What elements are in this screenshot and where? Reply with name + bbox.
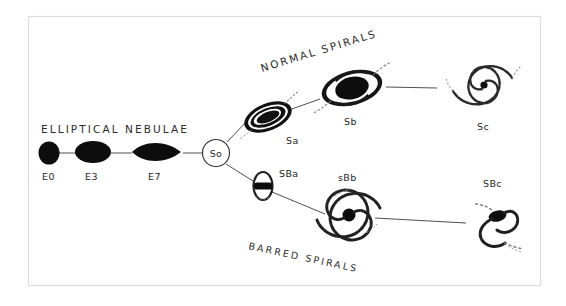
label-e0: E0 (42, 171, 55, 182)
galaxy-e3 (75, 141, 111, 163)
galaxy-sbb (317, 189, 380, 240)
galaxy-sba (254, 172, 273, 200)
label-sba: SBa (279, 168, 299, 179)
connector-sa-sb (289, 99, 320, 110)
connector-sbb-sbc (375, 218, 466, 223)
heading-elliptical-nebulae: ELLIPTICAL NEBULAE (41, 123, 189, 135)
label-sa: Sa (286, 135, 299, 146)
label-sbc: SBc (483, 178, 502, 189)
hubble-tuning-fork-figure: ELLIPTICAL NEBULAE NORMAL SPIRALS BARRED… (0, 0, 566, 306)
heading-barred-spirals: BARRED SPIRALS (248, 240, 360, 274)
galaxy-e7 (132, 143, 181, 161)
galaxy-e0 (39, 142, 60, 165)
galaxy-sbc (475, 204, 523, 252)
label-e3: E3 (85, 171, 98, 182)
label-sb: Sb (344, 116, 357, 127)
heading-normal-spirals: NORMAL SPIRALS (259, 27, 378, 74)
connector-sb-sc (386, 87, 437, 88)
label-sc: Sc (477, 121, 489, 132)
galaxy-sb (306, 60, 400, 116)
galaxy-sc (446, 66, 521, 104)
label-e7: E7 (148, 171, 161, 182)
connector-so-sba (226, 164, 253, 181)
label-sbb: sBb (338, 172, 357, 183)
connector-sba-sbb (272, 192, 325, 214)
label-so: So (210, 148, 223, 159)
